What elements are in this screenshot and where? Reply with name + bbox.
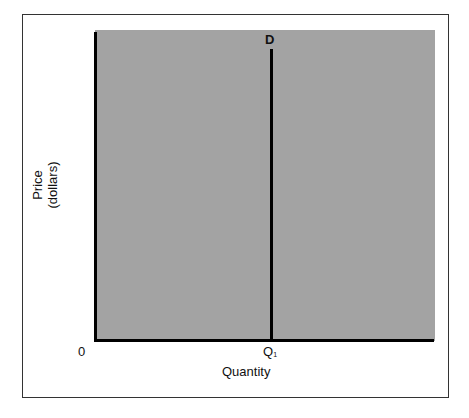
x-axis — [94, 339, 434, 342]
demand-label: D — [265, 32, 274, 47]
q-label: Q — [263, 344, 273, 359]
demand-curve — [270, 49, 273, 341]
q-subscript: 1 — [273, 351, 277, 358]
y-axis-label-line1: Price — [30, 125, 45, 245]
origin-label: 0 — [78, 344, 85, 359]
y-axis — [94, 32, 97, 342]
plot-area — [95, 30, 435, 341]
x-tick-q1: Q1 — [263, 344, 277, 359]
y-axis-label-line2: (dollars) — [45, 125, 60, 245]
x-axis-label: Quantity — [222, 364, 270, 379]
y-axis-label: Price (dollars) — [30, 125, 60, 245]
